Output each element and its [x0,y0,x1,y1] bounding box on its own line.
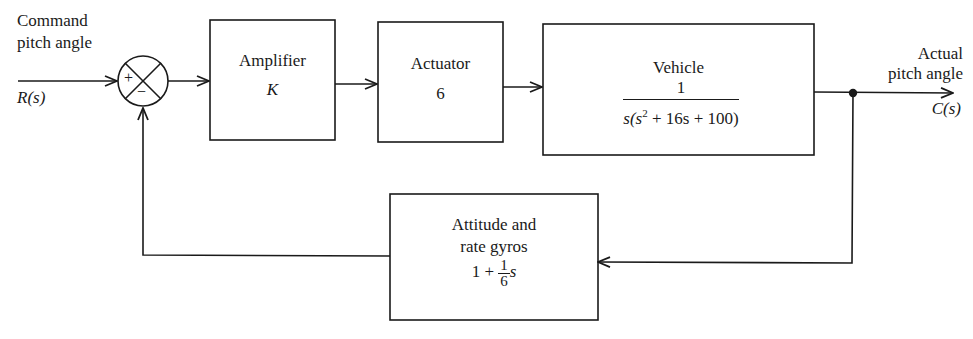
gyros-tf-num: 1 [498,258,510,274]
den-suffix: + 16s + 100) [648,109,739,128]
input-signal-label: R(s) [17,88,45,108]
actuator-gain: 6 [378,84,503,104]
actuator-title: Actuator [378,54,503,74]
input-label-line1: Command [17,11,88,31]
vehicle-tf: 1 s(s2 + 16s + 100) [606,78,756,129]
output-wire [814,92,953,93]
gyros-tf-suffix: s [510,262,517,281]
output-label-line2: pitch angle [888,64,963,84]
actuator-block-frame [378,22,503,142]
output-signal-label: C(s) [932,99,961,119]
gyros-block-frame [390,194,598,320]
gyros-tf-prefix: 1 + [472,262,499,281]
plus-sign: + [124,68,133,88]
vehicle-title: Vehicle [543,58,814,78]
vehicle-tf-numerator: 1 [623,78,738,100]
amplifier-title: Amplifier [210,51,335,71]
feedback-out-wire [143,108,390,256]
output-label-line1: Actual [918,44,963,64]
vehicle-tf-denominator: s(s2 + 16s + 100) [623,100,738,129]
gyros-title-line1: Attitude and [390,215,598,235]
pickoff-point [849,89,857,97]
input-label-line2: pitch angle [17,33,92,53]
gyros-tf-den: 6 [498,274,510,289]
den-prefix: s(s [623,109,642,128]
amplifier-gain: K [210,80,335,100]
minus-sign: − [137,82,146,102]
gyros-title-line2: rate gyros [390,237,598,257]
gyros-tf: 1 + 16s [390,258,598,289]
